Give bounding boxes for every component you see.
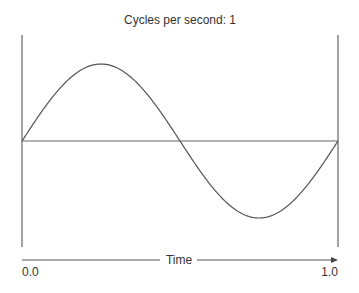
time-end-label: 1.0 [321, 265, 338, 279]
diagram-title: Cycles per second: 1 [124, 13, 236, 27]
time-axis-label: Time [166, 253, 193, 267]
waveform-diagram: Cycles per second: 1 Time 0.0 1.0 [0, 0, 359, 293]
time-start-label: 0.0 [22, 265, 39, 279]
time-axis-arrow-icon [331, 257, 338, 263]
